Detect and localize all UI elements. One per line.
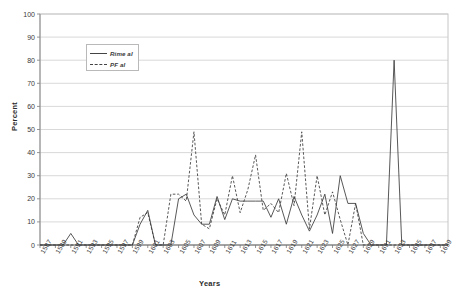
x-tick-label-1635: 1635: [409, 238, 423, 254]
y-axis-title: Percent: [10, 87, 19, 147]
x-axis-title: Years: [199, 279, 221, 288]
x-tick-label-1609: 1609: [208, 238, 222, 254]
x-tick-label-1627: 1627: [347, 238, 361, 254]
legend-label-series-0: Rime al: [110, 50, 133, 57]
x-tick-label-1621: 1621: [301, 238, 315, 254]
x-tick-label-1637: 1637: [424, 238, 438, 254]
x-tick-label-1587: 1587: [39, 238, 53, 254]
x-tick-label-1633: 1633: [393, 238, 407, 254]
x-tick-label-1613: 1613: [239, 238, 253, 254]
legend-swatch-solid: [90, 53, 107, 54]
x-tick-label-1623: 1623: [316, 238, 330, 254]
x-tick-label-1605: 1605: [178, 238, 192, 254]
x-tick-label-1631: 1631: [378, 238, 392, 254]
x-tick-label-1595: 1595: [101, 238, 115, 254]
x-tick-label-1617: 1617: [270, 238, 284, 254]
x-tick-label-1639: 1639: [439, 238, 453, 254]
x-tick-label-1611: 1611: [224, 239, 238, 255]
x-tick-label-1589: 1589: [54, 238, 68, 254]
x-tick-label-1629: 1629: [362, 238, 376, 254]
x-tick-label-1597: 1597: [116, 238, 130, 254]
x-tick-label-1599: 1599: [131, 238, 145, 254]
x-tick-label-1619: 1619: [285, 238, 299, 254]
x-tick-label-1607: 1607: [193, 238, 207, 254]
line-chart: 1009080706050403020100 15871589159115931…: [0, 0, 458, 298]
legend-item-series-0: Rime al: [90, 48, 133, 58]
legend-swatch-dashed: [90, 64, 107, 65]
x-tick-label-1615: 1615: [255, 238, 269, 254]
x-tick-label-1603: 1603: [162, 238, 176, 254]
x-tick-label-1591: 1591: [70, 238, 84, 254]
chart-legend: Rime al PF al: [86, 44, 139, 71]
legend-label-series-1: PF al: [110, 61, 125, 68]
x-tick-label-1625: 1625: [332, 238, 346, 254]
x-tick-label-1601: 1601: [147, 238, 161, 254]
legend-item-series-1: PF al: [90, 59, 125, 69]
x-tick-label-1593: 1593: [85, 238, 99, 254]
x-axis-tick-labels: 1587158915911593159515971599160116031605…: [0, 0, 458, 298]
